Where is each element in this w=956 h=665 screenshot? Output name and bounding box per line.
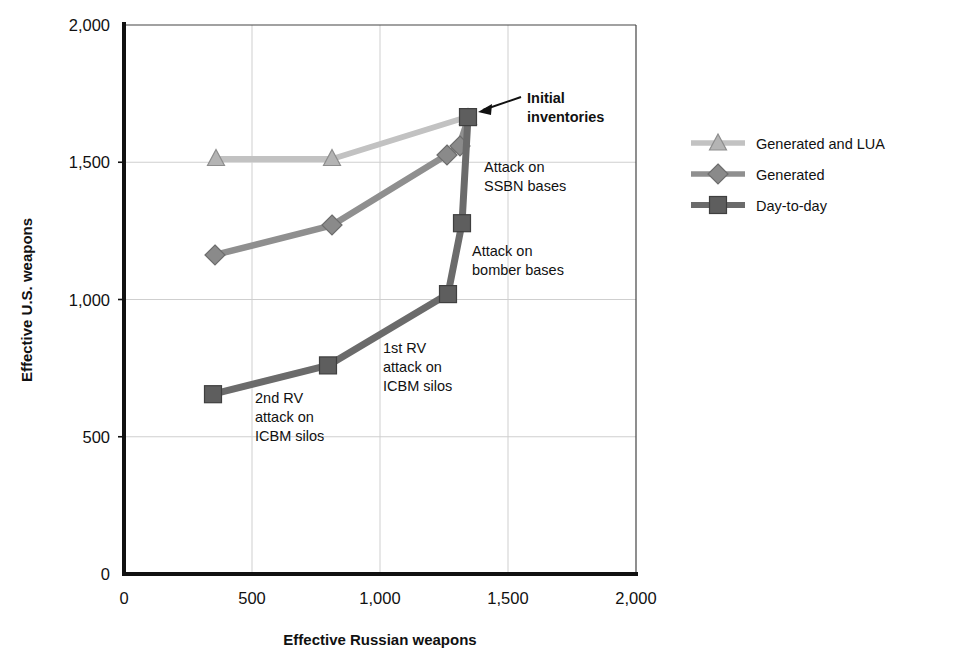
legend-label: Generated and LUA — [756, 136, 885, 152]
y-tick-label-2000: 2,000 — [69, 16, 110, 34]
y-axis-title: Effective U.S. weapons — [18, 218, 35, 382]
data-point-marker — [320, 357, 337, 374]
legend-item-day-to-day[interactable]: Day-to-day — [691, 197, 828, 215]
annotation-line-1: Attack on — [472, 243, 532, 259]
annotation-line-3: ICBM silos — [255, 428, 324, 444]
x-axis-title: Effective Russian weapons — [283, 631, 476, 648]
x-tick-label-2000: 2,000 — [615, 589, 656, 607]
square-icon — [710, 197, 727, 214]
annotation-line-2: bomber bases — [472, 262, 564, 278]
y-tick-label-1000: 1,000 — [69, 291, 110, 309]
y-tick-label-500: 500 — [82, 428, 110, 446]
legend-label: Day-to-day — [756, 198, 828, 214]
chart-legend: Generated and LUA Generated Day-to-day — [691, 134, 885, 214]
legend-item-generated[interactable]: Generated — [691, 164, 825, 184]
annotation-line-2: SSBN bases — [484, 178, 566, 194]
x-tick-label-0: 0 — [119, 589, 128, 607]
data-point-marker — [440, 286, 457, 303]
annotation-line-1: 2nd RV — [255, 390, 303, 406]
annotation-line-1: 1st RV — [383, 340, 427, 356]
chart-figure: 2,000 1,500 1,000 500 0 0 500 1,000 1,50… — [0, 0, 956, 665]
annotation-line-3: ICBM silos — [383, 378, 452, 394]
legend-item-generated-and-lua[interactable]: Generated and LUA — [691, 134, 885, 152]
annotation-line-2: inventories — [527, 109, 604, 125]
y-tick-label-1500: 1,500 — [69, 153, 110, 171]
y-tick-label-0: 0 — [101, 565, 110, 583]
x-tick-label-500: 500 — [238, 589, 266, 607]
chart-canvas: 2,000 1,500 1,000 500 0 0 500 1,000 1,50… — [0, 0, 956, 665]
data-point-marker — [460, 109, 477, 126]
annotation-line-1: Initial — [527, 90, 565, 106]
annotation-line-1: Attack on — [484, 159, 544, 175]
data-point-marker — [454, 215, 471, 232]
data-point-marker — [205, 386, 222, 403]
diamond-icon — [708, 164, 728, 184]
legend-label: Generated — [756, 167, 825, 183]
x-tick-label-1500: 1,500 — [487, 589, 528, 607]
annotation-line-2: attack on — [383, 359, 442, 375]
annotation-line-2: attack on — [255, 409, 314, 425]
x-tick-label-1000: 1,000 — [359, 589, 400, 607]
